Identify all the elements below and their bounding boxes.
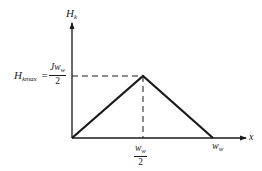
peak-label-numerator-text: Jw — [50, 62, 61, 72]
x-tick-half-numerator-sub: w — [141, 147, 146, 155]
peak-label-equals: = — [41, 69, 47, 81]
x-tick-full-width: ww — [212, 141, 223, 153]
x-tick-full-sub: w — [219, 145, 224, 153]
peak-label-denominator: 2 — [55, 76, 60, 87]
y-axis-label-main: H — [66, 7, 74, 19]
peak-label-numerator-sub: w — [61, 66, 66, 74]
peak-label-numerator: Jww — [49, 63, 66, 76]
peak-label-lhs-sub: kmax — [22, 75, 37, 83]
peak-label-fraction: Jww 2 — [49, 63, 66, 87]
x-tick-half-denominator: 2 — [138, 157, 143, 168]
x-tick-half-width: ww 2 — [134, 144, 147, 168]
peak-label-lhs: H — [14, 69, 22, 81]
peak-label: Hkmax = — [14, 70, 48, 83]
x-axis-label: x — [249, 132, 253, 142]
y-axis-label: Hk — [66, 8, 77, 21]
y-axis-label-sub: k — [74, 13, 77, 21]
x-tick-half-numerator: ww — [134, 144, 147, 157]
x-tick-full-text: w — [212, 140, 219, 151]
x-axis-label-text: x — [249, 131, 253, 142]
